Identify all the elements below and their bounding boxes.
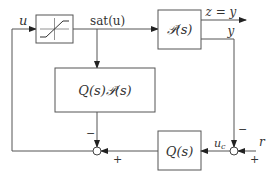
right-sum-plus-sign: + — [250, 153, 259, 166]
left-sum-plus-sign: + — [113, 153, 122, 166]
saturation-block — [36, 15, 73, 43]
right-sum-minus-sign: − — [238, 123, 247, 136]
q-label: Q(s) — [166, 144, 193, 159]
y-label: y — [227, 24, 235, 38]
sat-u-label: sat(u) — [90, 14, 125, 28]
qp-label: Q(s)𝒫(s) — [78, 83, 131, 98]
left-sum-junction — [93, 147, 101, 155]
uc-label: uc — [214, 137, 226, 151]
u-label: u — [19, 13, 27, 28]
block-diagram: u sat(u) 𝒫(s) z = y y Q(s)𝒫(s) Q(s) uc r… — [0, 0, 276, 180]
plant-label: 𝒫(s) — [167, 22, 193, 37]
z-eq-y-label: z = y — [205, 5, 237, 19]
y-output-wire — [201, 39, 234, 147]
right-sum-junction — [230, 147, 238, 155]
r-label: r — [259, 135, 266, 149]
left-sum-minus-sign: − — [86, 127, 95, 140]
